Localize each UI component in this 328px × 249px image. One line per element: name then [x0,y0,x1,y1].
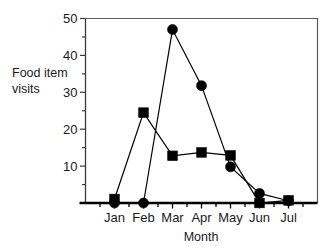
data-point-circle [139,198,149,208]
x-tick-label: Apr [191,210,212,225]
data-point-square [197,148,207,158]
y-tick-label: 30 [63,85,77,100]
y-tick-label: 50 [63,11,77,26]
y-tick-label: 10 [63,159,77,174]
data-point-square [110,194,120,204]
x-axis-tick-labels: JanFebMarAprMayJunJul [104,210,297,225]
y-axis-title-line1: Food item [12,66,68,80]
x-tick-label: Jun [249,210,270,225]
x-tick-label: Feb [132,210,154,225]
data-point-circle [226,162,236,172]
data-point-circle [168,25,178,35]
data-point-circle [255,188,265,198]
y-axis-title-line2: visits [12,82,40,96]
y-tick-label: 40 [63,48,77,63]
data-point-square [226,151,236,161]
line-chart: 1020304050 JanFebMarAprMayJunJul Food it… [0,0,328,249]
y-tick-label: 20 [63,122,77,137]
data-point-circle [197,81,207,91]
data-point-square [284,196,294,206]
chart-container: 1020304050 JanFebMarAprMayJunJul Food it… [0,0,328,249]
x-axis-title: Month [184,230,219,244]
x-tick-label: Mar [161,210,184,225]
data-point-square [139,108,149,118]
data-point-square [255,198,265,208]
data-point-square [168,151,178,161]
x-tick-label: Jan [104,210,125,225]
x-tick-label: May [218,210,243,225]
x-tick-label: Jul [280,210,297,225]
